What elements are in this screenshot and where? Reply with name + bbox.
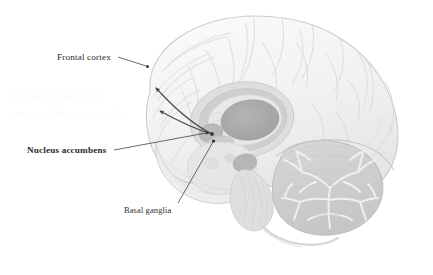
mammillary-body (225, 154, 235, 162)
hypothalamus-nucleus (205, 158, 218, 169)
label-basal-ganglia: Basal ganglia (124, 207, 171, 215)
label-frontal-cortex: Frontal cortex (57, 53, 111, 62)
leader-dot-basal-ganglia (212, 139, 215, 142)
cerebellum-group (272, 141, 382, 236)
pathway-origin-dot (210, 132, 214, 136)
leader-dot-nucleus-accumbens (206, 131, 209, 134)
label-nucleus-accumbens: Nucleus accumbens (27, 146, 106, 155)
brain-diagram-figure: faint background text barely visible gho… (0, 0, 433, 275)
leader-dot-frontal-cortex (146, 65, 149, 68)
brain-illustration (0, 0, 433, 275)
leader-frontal-cortex (118, 57, 146, 66)
